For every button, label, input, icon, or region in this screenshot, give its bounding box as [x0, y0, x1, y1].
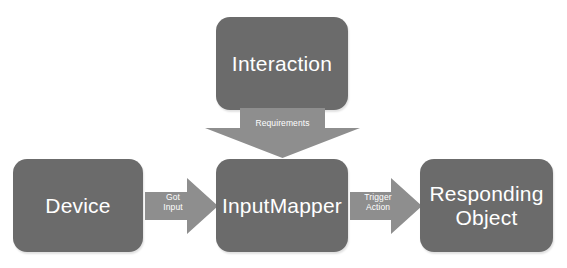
arrow-got-input-icon: [145, 178, 218, 234]
diagram-canvas: Interaction Requirements Device Got Inpu…: [0, 0, 567, 268]
node-inputmapper[interactable]: InputMapper: [216, 159, 348, 252]
node-device[interactable]: Device: [13, 159, 143, 252]
node-device-label: Device: [45, 194, 110, 218]
node-interaction-label: Interaction: [232, 52, 332, 76]
node-inputmapper-label: InputMapper: [222, 194, 342, 218]
node-responding-object[interactable]: Responding Object: [420, 159, 553, 252]
arrow-trigger-action-icon: [350, 178, 422, 234]
node-interaction[interactable]: Interaction: [216, 17, 348, 110]
node-responding-object-label: Responding Object: [429, 182, 543, 229]
arrow-requirements-icon: [205, 108, 360, 158]
